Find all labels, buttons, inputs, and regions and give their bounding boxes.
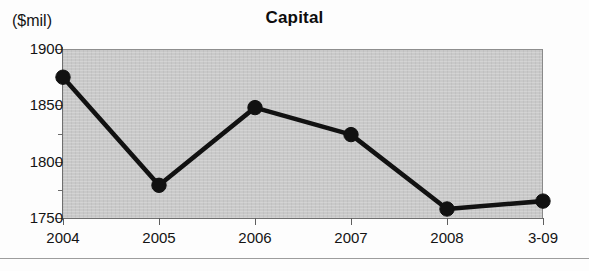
x-tick-mark-3-09 — [543, 218, 544, 225]
x-tick-label-2008: 2008 — [407, 229, 487, 246]
x-tick-label-3-09: 3-09 — [503, 229, 583, 246]
y-tick-label: 1900 — [13, 40, 63, 57]
plot-top-border — [63, 49, 542, 50]
y-tick-1800: 1800 — [0, 162, 63, 163]
plot-background-texture — [63, 49, 542, 218]
x-tick-mark-2004 — [63, 218, 64, 225]
x-tick-label-2007: 2007 — [311, 229, 391, 246]
x-tick-label-2005: 2005 — [119, 229, 199, 246]
y-minor-tick-1775 — [58, 190, 63, 191]
bottom-separator-rule — [0, 258, 589, 259]
x-axis-line — [62, 218, 544, 219]
x-tick-mark-2006 — [255, 218, 256, 225]
y-minor-tick-1875 — [58, 77, 63, 78]
y-tick-label: 1750 — [13, 209, 63, 226]
x-tick-mark-2005 — [159, 218, 160, 225]
plot-area — [63, 49, 543, 218]
x-tick-mark-2008 — [447, 218, 448, 225]
y-minor-tick-1825 — [58, 134, 63, 135]
y-tick-1850: 1850 — [0, 105, 63, 106]
x-tick-label-2004: 2004 — [23, 229, 103, 246]
y-tick-1900: 1900 — [0, 49, 63, 50]
x-tick-label-2006: 2006 — [215, 229, 295, 246]
y-tick-label: 1850 — [13, 96, 63, 113]
x-tick-mark-2007 — [351, 218, 352, 225]
capital-line-chart-figure: ($mil) Capital 1900185018001750 20042005… — [0, 0, 589, 271]
y-tick-label: 1800 — [13, 153, 63, 170]
y-tick-1750: 1750 — [0, 218, 63, 219]
chart-title: Capital — [0, 8, 589, 28]
